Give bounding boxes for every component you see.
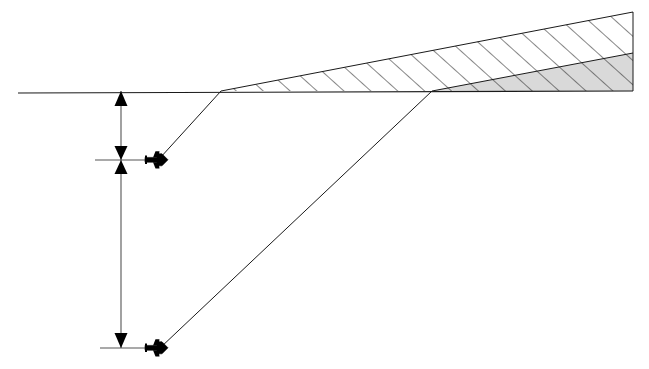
diagram-svg bbox=[0, 0, 649, 369]
diagram-canvas bbox=[0, 0, 649, 369]
